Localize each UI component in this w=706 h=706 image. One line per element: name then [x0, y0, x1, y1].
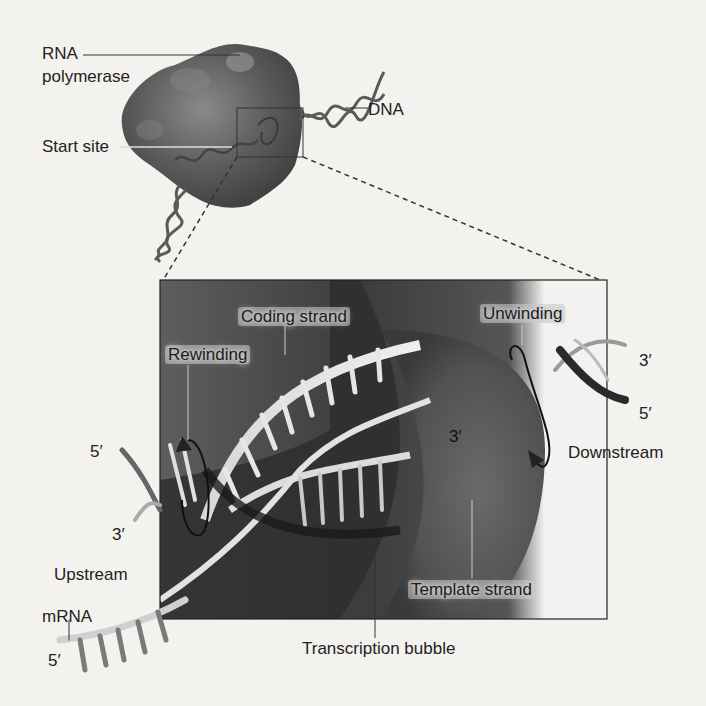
label-rna: RNA — [42, 45, 78, 62]
transcription-diagram: RNA polymerase DNA Start site Coding str… — [0, 0, 706, 706]
label-transcription-bubble: Transcription bubble — [302, 640, 455, 657]
label-left-5prime: 5′ — [90, 443, 103, 460]
label-downstream: Downstream — [568, 444, 663, 461]
label-upstream: Upstream — [54, 566, 128, 583]
label-mrna-5prime: 5′ — [48, 652, 61, 669]
label-right-3prime: 3′ — [639, 352, 652, 369]
label-right-5prime: 5′ — [639, 405, 652, 422]
label-coding-strand: Coding strand — [238, 307, 350, 326]
diagram-artwork — [0, 0, 706, 706]
label-left-3prime: 3′ — [112, 526, 125, 543]
label-template-strand: Template strand — [408, 580, 535, 599]
inset-panel — [160, 280, 607, 619]
label-mrna: mRNA — [42, 608, 92, 625]
label-start-site: Start site — [42, 138, 109, 155]
rna-polymerase-blob — [122, 44, 302, 208]
label-center-3prime: 3′ — [449, 428, 462, 445]
label-polymerase: polymerase — [42, 68, 130, 85]
label-rewinding: Rewinding — [165, 345, 250, 364]
label-unwinding: Unwinding — [480, 304, 565, 323]
label-dna: DNA — [368, 101, 404, 118]
upstream-helix — [122, 450, 160, 520]
zoom-line-right — [303, 157, 605, 282]
